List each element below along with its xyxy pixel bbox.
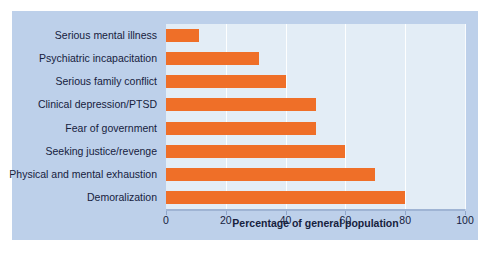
bar [166, 191, 405, 204]
category-label: Psychiatric incapacitation [39, 47, 157, 70]
bar-row [166, 70, 465, 93]
category-label: Seeking justice/revenge [46, 140, 158, 163]
bar [166, 29, 199, 42]
x-axis-line [166, 209, 465, 211]
bar-row [166, 24, 465, 47]
category-label: Fear of government [65, 117, 157, 140]
bar-row [166, 117, 465, 140]
bar-row [166, 163, 465, 186]
bar-row [166, 186, 465, 209]
category-label: Serious mental illness [55, 24, 157, 47]
x-axis-title: Percentage of general population [166, 217, 465, 229]
category-label: Physical and mental exhaustion [9, 163, 157, 186]
chart-figure-panel: Serious mental illnessPsychiatric incapa… [12, 11, 478, 240]
category-axis-labels: Serious mental illnessPsychiatric incapa… [12, 24, 162, 209]
bar-row [166, 140, 465, 163]
category-label: Demoralization [87, 186, 157, 209]
bar [166, 168, 375, 181]
bar [166, 75, 286, 88]
bar-row [166, 47, 465, 70]
bar [166, 145, 345, 158]
plot-area [166, 24, 465, 209]
bar-series [166, 24, 465, 209]
gridline-100 [465, 24, 466, 209]
bar-row [166, 93, 465, 116]
category-label: Clinical depression/PTSD [38, 93, 157, 116]
bar [166, 52, 259, 65]
bar [166, 122, 316, 135]
category-label: Serious family conflict [55, 70, 157, 93]
bar [166, 98, 316, 111]
